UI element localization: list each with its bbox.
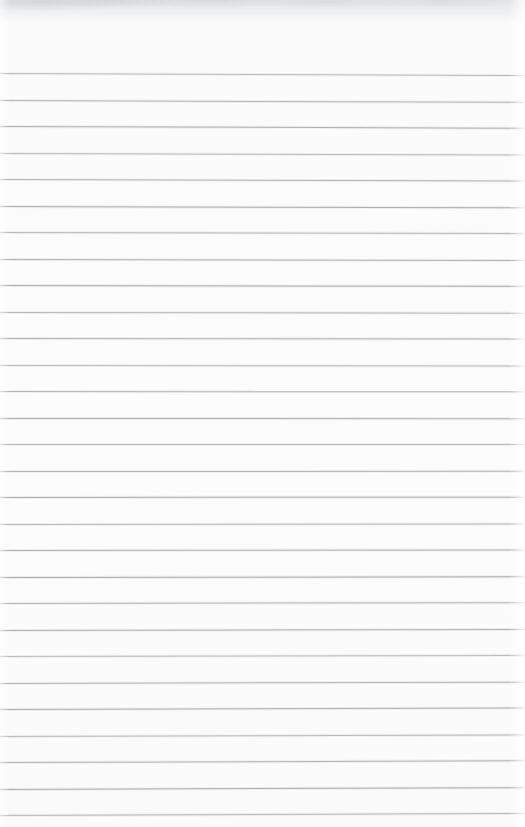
ruled-lines-layer xyxy=(0,0,525,827)
rule-line xyxy=(0,100,525,103)
rule-line xyxy=(0,549,525,551)
rule-line xyxy=(0,470,525,471)
rule-line xyxy=(0,73,525,76)
rule-line xyxy=(0,444,525,445)
rule-line xyxy=(0,760,525,763)
rule-line xyxy=(0,365,525,366)
rule-line xyxy=(0,734,525,737)
rule-line xyxy=(0,602,525,604)
rule-line xyxy=(0,523,525,524)
rule-line xyxy=(0,787,525,790)
rule-line xyxy=(0,813,525,816)
rule-line xyxy=(0,153,525,156)
rule-line xyxy=(0,628,525,630)
rule-line xyxy=(0,312,525,314)
rule-line xyxy=(0,497,525,498)
rule-line xyxy=(0,418,525,419)
rule-line xyxy=(0,391,525,392)
rule-line xyxy=(0,126,525,129)
rule-line xyxy=(0,179,525,181)
scanned-page xyxy=(0,0,525,827)
rule-line xyxy=(0,681,525,683)
rule-line xyxy=(0,655,525,657)
rule-line xyxy=(0,338,525,340)
rule-line xyxy=(0,259,525,261)
rule-line xyxy=(0,232,525,234)
rule-line xyxy=(0,206,525,208)
rule-line xyxy=(0,285,525,287)
rule-line xyxy=(0,708,525,710)
rule-line xyxy=(0,576,525,578)
